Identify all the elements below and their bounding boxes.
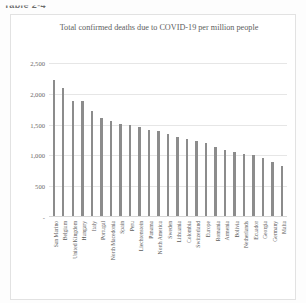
bar [205,143,207,217]
y-axis-tick: - [43,214,45,221]
bar-slot [201,63,211,217]
chart-figure: Total confirmed deaths due to COVID-19 p… [10,14,296,300]
y-axis-tick: 1,000 [30,152,45,159]
bar-slot [249,63,259,217]
x-label-slot: Armenia [220,219,230,303]
bar-slot [135,63,145,217]
plot-area: -5001,0001,5002,0002,500 [49,63,287,217]
x-label-slot: Europe [201,219,211,303]
bar [62,88,64,217]
bar [281,166,283,217]
bar [176,137,178,217]
bar [195,141,197,217]
bar [119,124,121,217]
y-axis-tick: 2,500 [30,60,45,67]
bar-slot [211,63,221,217]
x-axis-label: Malta [282,221,288,234]
bar-slot [49,63,59,217]
bar [157,131,159,217]
bar-slot [78,63,88,217]
bar-slot [125,63,135,217]
bar [271,162,273,217]
bar-slot [154,63,164,217]
x-label-slot: Lithuania [173,219,183,303]
bar [224,150,226,217]
x-label-slot: Belgium [59,219,69,303]
x-label-slot: Malta [277,219,287,303]
bar-slot [116,63,126,217]
x-label-slot: Ecuador [249,219,259,303]
x-label-slot: North Macedonia [106,219,116,303]
x-label-slot: Netherlands [239,219,249,303]
bar [81,101,83,217]
x-label-slot: Italy [87,219,97,303]
bar [110,121,112,217]
x-label-slot: Hungary [78,219,88,303]
bar-slot [220,63,230,217]
bar [214,147,216,217]
x-axis-labels: San MarinoBelgiumUnited KingdomHungaryIt… [49,219,287,303]
bar-slot [173,63,183,217]
bar-slot [182,63,192,217]
bar-slot [87,63,97,217]
bar [148,130,150,217]
bar-series [49,63,287,217]
x-label-slot: Sweden [163,219,173,303]
x-label-slot: Spain [116,219,126,303]
bar [262,158,264,217]
bar [252,155,254,217]
x-label-slot: Bolivia [230,219,240,303]
x-label-slot: Romania [211,219,221,303]
x-label-slot: Panama [144,219,154,303]
bar [186,139,188,217]
bar [129,125,131,217]
x-label-slot: Switzerland [192,219,202,303]
bar-slot [97,63,107,217]
x-label-slot: Portugal [97,219,107,303]
x-label-slot: North America [154,219,164,303]
bar [72,101,74,217]
bar [53,80,55,217]
bar-slot [163,63,173,217]
y-axis-tick: 1,500 [30,121,45,128]
bar [243,154,245,217]
bar-slot [239,63,249,217]
bar-slot [106,63,116,217]
bar-slot [268,63,278,217]
bar [91,111,93,217]
bar-slot [258,63,268,217]
bar-slot [59,63,69,217]
x-label-slot: Germany [268,219,278,303]
bar-slot [277,63,287,217]
bar [100,118,102,217]
bar-slot [230,63,240,217]
x-label-slot: Colombia [182,219,192,303]
chart-title: Total confirmed deaths due to COVID-19 p… [39,23,279,33]
x-label-slot: Liechtenstein [135,219,145,303]
x-label-slot: San Marino [49,219,59,303]
bar-slot [144,63,154,217]
bar [167,134,169,217]
bar [233,152,235,217]
x-label-slot: Georgia [258,219,268,303]
y-axis-tick: 2,000 [30,90,45,97]
bar [138,127,140,217]
bar-slot [192,63,202,217]
x-label-slot: Peru [125,219,135,303]
axis-baseline [49,216,287,217]
bar-slot [68,63,78,217]
x-label-slot: United Kingdom [68,219,78,303]
y-axis-tick: 500 [35,183,45,190]
